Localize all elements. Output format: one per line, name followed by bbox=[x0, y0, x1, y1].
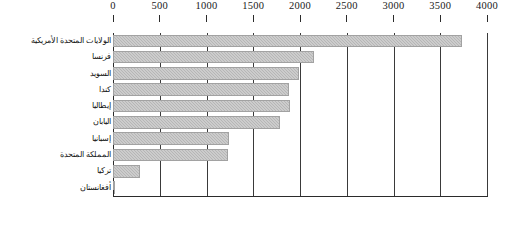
x-axis-tick-mark bbox=[159, 15, 160, 22]
bar-rows: الولايات المتحدة الأمريكيةفرنساالسويدكند… bbox=[0, 33, 512, 196]
bar-track bbox=[113, 82, 487, 98]
x-axis-tick-1000: 1000 bbox=[187, 0, 227, 22]
bar bbox=[113, 35, 462, 48]
bar-track bbox=[113, 66, 487, 82]
bar-row: تركيا bbox=[0, 163, 512, 179]
bar-track bbox=[113, 163, 487, 179]
x-axis-tick-3500: 3500 bbox=[420, 0, 460, 22]
bar-track bbox=[113, 98, 487, 114]
bar bbox=[113, 116, 280, 129]
bar bbox=[113, 51, 314, 64]
x-axis-tick-1500: 1500 bbox=[233, 0, 273, 22]
x-axis-tick-mark bbox=[113, 15, 114, 22]
x-axis-tick-4000: 4000 bbox=[467, 0, 507, 22]
x-axis-tick-label: 1000 bbox=[187, 0, 227, 12]
x-axis-tick-label: 4000 bbox=[467, 0, 507, 12]
category-label: كندا bbox=[99, 82, 111, 98]
bar-track bbox=[113, 114, 487, 130]
bar-track bbox=[113, 147, 487, 163]
bar bbox=[113, 67, 299, 80]
x-axis-bottom-line bbox=[113, 196, 488, 197]
bar-row: اليابان bbox=[0, 114, 512, 130]
x-axis-top: 05001000150020002500300035004000 bbox=[113, 0, 487, 33]
bar-row: إسبانيا bbox=[0, 131, 512, 147]
bar-row: فرنسا bbox=[0, 49, 512, 65]
bar bbox=[113, 83, 289, 96]
bar-row: أفغانستان bbox=[0, 180, 512, 196]
category-label: إيطاليا bbox=[92, 98, 111, 114]
x-axis-tick-label: 500 bbox=[140, 0, 180, 12]
x-axis-tick-label: 3000 bbox=[374, 0, 414, 12]
bar bbox=[113, 165, 140, 178]
x-axis-tick-label: 3500 bbox=[420, 0, 460, 12]
category-label: فرنسا bbox=[92, 49, 111, 65]
x-axis-tick-label: 2000 bbox=[280, 0, 320, 12]
x-axis-tick-mark bbox=[440, 15, 441, 22]
x-axis-tick-2000: 2000 bbox=[280, 0, 320, 22]
x-axis-tick-mark bbox=[487, 15, 488, 22]
bar-row: كندا bbox=[0, 82, 512, 98]
category-label: اليابان bbox=[93, 114, 111, 130]
bar-row: المملكة المتحدة bbox=[0, 147, 512, 163]
x-axis-tick-mark bbox=[300, 15, 301, 22]
bar bbox=[113, 100, 290, 113]
bar-chart: 05001000150020002500300035004000 الولايا… bbox=[0, 0, 512, 231]
x-axis-tick-3000: 3000 bbox=[374, 0, 414, 22]
category-label: السويد bbox=[90, 66, 111, 82]
bar-row: إيطاليا bbox=[0, 98, 512, 114]
x-axis-tick-mark bbox=[346, 15, 347, 22]
x-axis-tick-500: 500 bbox=[140, 0, 180, 22]
bar-row: الولايات المتحدة الأمريكية bbox=[0, 33, 512, 49]
bar-track bbox=[113, 33, 487, 49]
x-axis-tick-label: 0 bbox=[93, 0, 133, 12]
bar bbox=[113, 132, 229, 145]
bar-row: السويد bbox=[0, 66, 512, 82]
bar bbox=[113, 149, 228, 162]
bar-track bbox=[113, 131, 487, 147]
x-axis-tick-mark bbox=[393, 15, 394, 22]
category-label: المملكة المتحدة bbox=[60, 147, 111, 163]
category-label: أفغانستان bbox=[80, 180, 111, 196]
category-label: الولايات المتحدة الأمريكية bbox=[31, 33, 111, 49]
x-axis-bottom-cap bbox=[113, 190, 114, 197]
bar-track bbox=[113, 180, 487, 196]
x-axis-tick-label: 2500 bbox=[327, 0, 367, 12]
x-axis-tick-mark bbox=[206, 15, 207, 22]
category-label: إسبانيا bbox=[92, 131, 111, 147]
x-axis-tick-mark bbox=[253, 15, 254, 22]
x-axis-tick-0: 0 bbox=[93, 0, 133, 22]
bar-track bbox=[113, 49, 487, 65]
category-label: تركيا bbox=[97, 163, 111, 179]
x-axis-tick-2500: 2500 bbox=[327, 0, 367, 22]
x-axis-tick-label: 1500 bbox=[233, 0, 273, 12]
